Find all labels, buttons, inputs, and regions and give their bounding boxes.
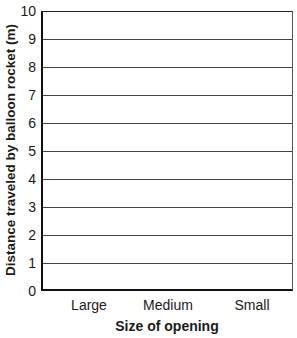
y-tick-3: 3 bbox=[6, 200, 36, 214]
y-tick-10: 10 bbox=[6, 4, 36, 18]
y-tick-0: 0 bbox=[6, 284, 36, 298]
gridline-2 bbox=[43, 235, 292, 236]
gridline-8 bbox=[43, 67, 292, 68]
y-tick-1: 1 bbox=[6, 256, 36, 270]
y-tick-8: 8 bbox=[6, 60, 36, 74]
y-tick-7: 7 bbox=[6, 88, 36, 102]
y-tick-2: 2 bbox=[6, 228, 36, 242]
x-axis-label: Size of opening bbox=[41, 318, 293, 334]
gridline-6 bbox=[43, 123, 292, 124]
gridline-3 bbox=[43, 207, 292, 208]
gridline-5 bbox=[43, 151, 292, 152]
gridline-4 bbox=[43, 179, 292, 180]
y-tick-9: 9 bbox=[6, 32, 36, 46]
y-tick-6: 6 bbox=[6, 116, 36, 130]
gridline-7 bbox=[43, 95, 292, 96]
y-tick-4: 4 bbox=[6, 172, 36, 186]
x-tick-small: Small bbox=[212, 297, 292, 313]
y-tick-5: 5 bbox=[6, 144, 36, 158]
gridline-1 bbox=[43, 263, 292, 264]
plot-area bbox=[41, 11, 293, 291]
gridline-9 bbox=[43, 39, 292, 40]
x-tick-large: Large bbox=[49, 297, 129, 313]
x-tick-medium: Medium bbox=[128, 297, 208, 313]
